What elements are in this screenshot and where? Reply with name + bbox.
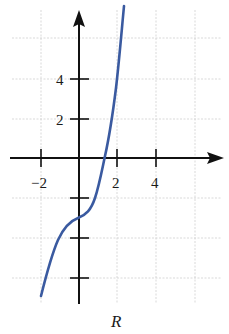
function-curve	[41, 6, 124, 296]
figure-caption: R	[110, 312, 122, 331]
graph-figure: −2 2 4 4 2 R	[0, 0, 229, 334]
y-tick-label: 2	[56, 112, 64, 128]
ticks	[41, 79, 156, 278]
x-tick-label: −2	[31, 175, 47, 191]
x-tick-label: 2	[112, 175, 120, 191]
x-tick-label: 4	[151, 175, 159, 191]
y-tick-label: 4	[56, 72, 64, 88]
